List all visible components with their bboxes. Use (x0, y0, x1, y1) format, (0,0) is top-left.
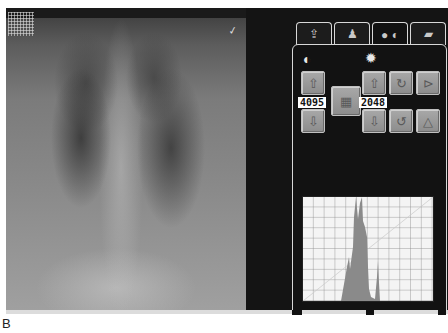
rotate-ccw-icon: ↺ (396, 114, 407, 129)
window-level-up-button[interactable]: ⇧ (362, 71, 386, 95)
image-overlay-grid-icon (8, 12, 34, 36)
window-width-down-button[interactable]: ⇩ (301, 109, 325, 133)
curve-grid-icon: ▦ (340, 94, 352, 109)
scroll-marker (438, 310, 446, 315)
tools-icon: ▰ (424, 27, 433, 41)
patient-icon: ♟ (347, 27, 358, 41)
bottom-divider (6, 310, 448, 314)
viewer-screen: ✓ ⇪ ♟ ● ◐ ▰ ◐ ✹ ⇧ 4095 ⇩ (6, 8, 448, 312)
histogram-chart[interactable] (302, 196, 434, 302)
histogram-graphic (303, 197, 433, 301)
window-level-value: 2048 (359, 97, 387, 108)
tab-patient[interactable]: ♟ (334, 22, 370, 45)
contrast-icon: ◐ (303, 51, 311, 67)
scroll-marker (292, 310, 302, 315)
rotate-clockwise-button[interactable]: ↻ (389, 71, 413, 95)
brightness-icon: ✹ (365, 50, 377, 66)
window-width-up-button[interactable]: ⇧ (301, 71, 325, 95)
image-transfer-icon: ⇪ (309, 27, 319, 41)
arrow-up-icon: ⇧ (308, 76, 319, 91)
flip-vertical-button[interactable]: △ (416, 109, 440, 133)
brightness-contrast-icon: ● ◐ (381, 28, 399, 42)
arrow-down-icon: ⇩ (308, 114, 319, 129)
xray-viewport[interactable]: ✓ (6, 8, 246, 311)
flip-vertical-icon: △ (423, 114, 433, 129)
transfer-curve-button[interactable]: ▦ (331, 86, 361, 116)
figure-caption: B (2, 316, 11, 331)
window-width-value: 4095 (298, 97, 326, 108)
tab-bar: ⇪ ♟ ● ◐ ▰ (288, 22, 448, 44)
tab-image-transfer[interactable]: ⇪ (296, 22, 332, 45)
orientation-marker-icon: ✓ (227, 23, 238, 37)
window-level-down-button[interactable]: ⇩ (362, 109, 386, 133)
flip-horizontal-button[interactable]: ⊳ (416, 71, 440, 95)
scroll-marker (366, 310, 374, 315)
tab-tools[interactable]: ▰ (410, 22, 446, 45)
rotate-counterclockwise-button[interactable]: ↺ (389, 109, 413, 133)
arrow-up-icon: ⇧ (369, 76, 380, 91)
flip-horizontal-icon: ⊳ (423, 76, 434, 91)
rotate-cw-icon: ↻ (396, 76, 407, 91)
arrow-down-icon: ⇩ (369, 114, 380, 129)
